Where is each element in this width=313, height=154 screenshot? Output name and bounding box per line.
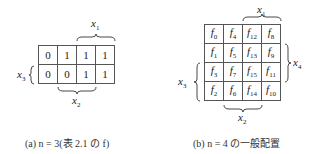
table-row: f0 f4 f12 f8 (205, 25, 281, 44)
brace-top-x1 (77, 34, 115, 42)
label-x1: x1 (91, 17, 99, 32)
kmap-grid-n4: f0 f4 f12 f8 f1 f5 f13 f9 f3 f7 f15 f11 … (204, 24, 281, 101)
brace-right-x4 (285, 44, 291, 82)
cell: f3 (205, 63, 224, 82)
cell: f7 (224, 63, 243, 82)
label-x4: x4 (293, 56, 301, 71)
cell: f13 (243, 44, 262, 63)
cell: f8 (262, 25, 281, 44)
cell: f9 (262, 44, 281, 63)
cell: f12 (243, 25, 262, 44)
caption-a: (a) n = 3(表 2.1 の f) (25, 135, 109, 150)
table-row: f2 f6 f14 f10 (205, 82, 281, 101)
label-x3: x3 (17, 68, 25, 83)
cell: f14 (243, 82, 262, 101)
cell: 0 (39, 46, 58, 65)
table-row: 0 1 1 1 (39, 46, 115, 65)
table-row: f3 f7 f15 f11 (205, 63, 281, 82)
label-x3: x3 (178, 75, 186, 90)
cell: f0 (205, 25, 224, 44)
caption-b: (b) n = 4 の一般配置 (193, 135, 280, 150)
brace-top-x1 (243, 14, 281, 22)
cell: 0 (39, 65, 58, 84)
cell: 1 (77, 65, 96, 84)
kmap-grid-n3: 0 1 1 1 0 0 1 1 (38, 45, 115, 84)
cell: 0 (58, 65, 77, 84)
cell: f2 (205, 82, 224, 101)
cell: f4 (224, 25, 243, 44)
cell: f11 (262, 63, 281, 82)
brace-left-x3 (29, 66, 35, 84)
cell: f5 (224, 44, 243, 63)
label-x2: x2 (72, 94, 80, 109)
cell: f10 (262, 82, 281, 101)
table-row: f1 f5 f13 f9 (205, 44, 281, 63)
table-row: 0 0 1 1 (39, 65, 115, 84)
cell: f6 (224, 82, 243, 101)
label-x2: x2 (238, 111, 246, 126)
cell: f1 (205, 44, 224, 63)
cell: 1 (96, 65, 115, 84)
cell: f15 (243, 63, 262, 82)
cell: 1 (96, 46, 115, 65)
cell: 1 (77, 46, 96, 65)
cell: 1 (58, 46, 77, 65)
brace-left-x3 (194, 63, 200, 101)
